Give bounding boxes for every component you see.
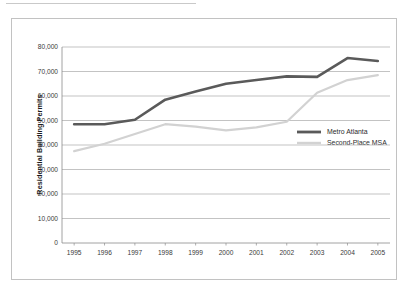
figure-root: Residential Building Permits 80,00070,00… bbox=[0, 0, 409, 298]
gridlines bbox=[62, 47, 390, 219]
legend-swatches bbox=[297, 132, 321, 143]
data-series-lines bbox=[74, 58, 378, 151]
chart-plot-area bbox=[0, 0, 409, 298]
